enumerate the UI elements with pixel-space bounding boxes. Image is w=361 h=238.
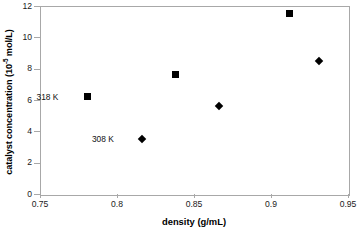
x-axis-tick-label-wrap: 0.9 [251,199,291,210]
scatter-chart: catalyst concentration (10-5 mol/L) 0246… [0,0,361,238]
y-axis-tick [34,6,40,7]
x-axis-title: density (g/mL) [40,216,348,227]
y-axis-tick-label-wrap: 6 [2,96,32,105]
data-point-318-k [172,71,179,78]
x-axis-tick-label: 0.9 [251,199,291,210]
y-axis-tick-label-wrap: 0 [2,190,32,199]
y-axis-tick-label-wrap: 4 [2,127,32,136]
y-axis-tick-label: 12 [6,2,32,11]
y-axis-tick-label-wrap: 8 [2,64,32,73]
x-axis-tick [194,194,195,198]
data-point-318-k [84,93,91,100]
x-axis-tick-label: 0.8 [97,199,137,210]
series-label-318-k: 318 K [36,92,58,102]
y-axis-tick [34,163,40,164]
x-axis-tick-label: 0.75 [20,199,60,210]
x-axis-tick-label-wrap: 0.85 [174,199,214,210]
y-axis-tick-label: 2 [6,158,32,167]
x-axis-tick [348,194,349,198]
y-axis-tick-label: 0 [6,190,32,199]
x-axis-tick [271,194,272,198]
x-axis-tick-label: 0.85 [174,199,214,210]
y-axis-tick [34,69,40,70]
y-axis-tick-label: 4 [6,127,32,136]
y-axis-tick-label: 10 [6,33,32,42]
y-axis-tick [34,37,40,38]
series-label-308-k: 308 K [92,134,114,144]
plot-area [40,6,350,196]
y-axis-tick-label-wrap: 2 [2,158,32,167]
data-point-318-k [286,10,293,17]
x-axis-tick-label-wrap: 0.8 [97,199,137,210]
y-axis-tick-label-wrap: 12 [2,2,32,11]
x-axis-tick-label-wrap: 0.95 [328,199,361,210]
x-axis-tick [117,194,118,198]
x-axis-tick-label-wrap: 0.75 [20,199,60,210]
x-axis-tick [40,194,41,198]
y-axis-tick-label-wrap: 10 [2,33,32,42]
y-axis-tick-label: 6 [6,96,32,105]
y-axis-tick-label: 8 [6,64,32,73]
y-axis-tick [34,131,40,132]
x-axis-tick-label: 0.95 [328,199,361,210]
